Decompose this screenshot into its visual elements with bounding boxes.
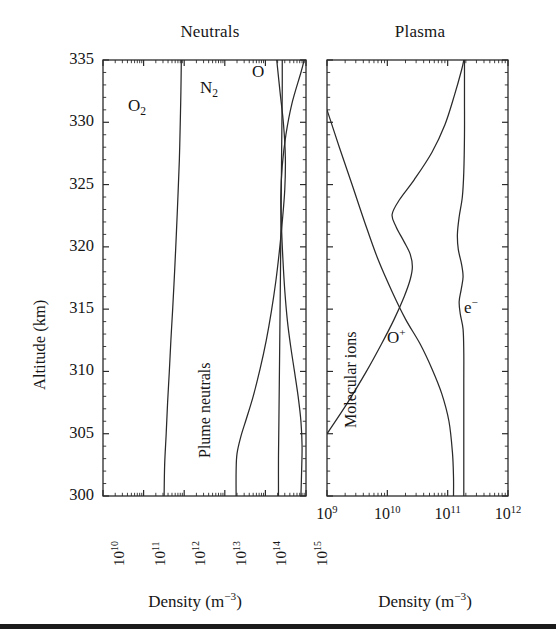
- curve-label-electron-text: e: [464, 298, 472, 317]
- curve-label-o-plus: O+: [387, 328, 406, 348]
- plot-canvas: [0, 0, 556, 638]
- curve-n2: [236, 60, 285, 496]
- curve-o2: [164, 60, 181, 496]
- curve-label-electron: e−: [464, 298, 478, 318]
- curve-label-plume-neutrals: Plume neutrals: [196, 362, 214, 458]
- curve-label-o2-text: O: [128, 96, 140, 115]
- curves-neutrals: [164, 60, 304, 496]
- curve-o: [278, 60, 282, 496]
- curve-label-o2: O2: [128, 96, 146, 116]
- curve-label-n2-sub: 2: [212, 87, 218, 100]
- curve-label-n2: N2: [200, 78, 218, 98]
- curve-molecular-ions: [327, 110, 454, 496]
- curve-label-o: O: [252, 62, 264, 82]
- curve-label-o-plus-sup: +: [399, 326, 405, 338]
- curve-label-electron-sup: −: [472, 296, 478, 308]
- plot-frame-plasma: [327, 60, 508, 496]
- curve-e-: [457, 60, 464, 496]
- figure-container: Neutrals Plasma Altitude (km) 3353303253…: [0, 0, 556, 638]
- curve-label-n2-text: N: [200, 78, 212, 97]
- curve-label-molecular-ions: Molecular ions: [342, 332, 360, 428]
- curves-plasma: [327, 60, 465, 496]
- curve-label-o-plus-text: O: [387, 328, 399, 347]
- curve-label-o2-sub: 2: [140, 105, 146, 118]
- bottom-rule: [0, 624, 556, 629]
- curve-plume-neutrals: [281, 60, 304, 496]
